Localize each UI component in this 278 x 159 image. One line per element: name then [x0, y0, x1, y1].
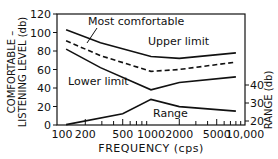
chart: 0204060801001202030401002005001000200050…	[0, 0, 278, 159]
annotation-most-comfortable: Most comfortable	[88, 15, 184, 28]
y-axis-title-left: LISTENING LEVEL (db)	[17, 17, 28, 128]
y-tick-label-left: 40	[37, 82, 51, 95]
x-tick-label: 500	[112, 128, 133, 141]
y-tick-label-left: 0	[44, 119, 51, 132]
annotation-upper-limit: Upper limit	[148, 35, 210, 48]
curve-range	[66, 99, 236, 124]
y-tick-label-right: 40	[250, 79, 264, 92]
y-tick-label-left: 80	[37, 45, 51, 58]
y-tick-label-left: 60	[37, 64, 51, 77]
annotation-lower-limit: Lower limit	[68, 75, 129, 88]
x-tick-label: 100	[52, 128, 73, 141]
y-tick-label-left: 120	[30, 8, 51, 21]
y-tick-label-left: 20	[37, 101, 51, 114]
x-tick-label: 1000	[137, 128, 165, 141]
y-axis-title-left: COMFORTABLE –	[6, 31, 17, 113]
y-axis-title-right: RANGE (db)	[263, 71, 274, 130]
y-tick-label-right: 20	[250, 115, 264, 128]
x-tick-label: 2000	[165, 128, 193, 141]
x-axis-title: FREQUENCY (cps)	[98, 142, 203, 155]
x-tick-label: 200	[75, 128, 96, 141]
annotation-range: Range	[153, 107, 188, 120]
y-tick-label-right: 30	[250, 97, 264, 110]
x-tick-label: 10,000	[226, 128, 265, 141]
y-tick-label-left: 100	[30, 27, 51, 40]
axes-box	[57, 14, 245, 125]
